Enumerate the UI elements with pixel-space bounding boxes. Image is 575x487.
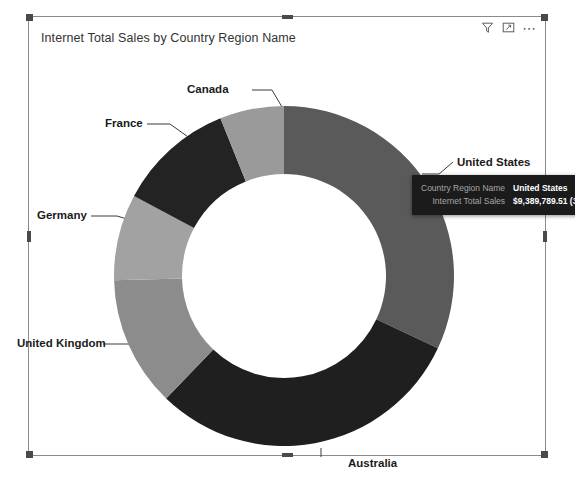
slice-label-australia: Australia [348, 457, 397, 469]
resize-handle-top-right[interactable] [541, 14, 548, 21]
tooltip-table: Country Region Name United States Intern… [421, 182, 575, 207]
tooltip-row: Country Region Name United States [421, 182, 575, 195]
donut-slice-australia[interactable] [166, 319, 438, 446]
slice-label-germany: Germany [37, 209, 87, 221]
slice-label-france: France [105, 117, 143, 129]
resize-handle-bottom-right[interactable] [541, 451, 548, 458]
report-visual-container[interactable]: Internet Total Sales by Country Region N… [28, 16, 546, 456]
leader-line-france [147, 124, 191, 139]
tooltip-value-internet-total-sales: $9,389,789.51 (31.98%) [513, 195, 575, 208]
resize-handle-left-middle[interactable] [27, 231, 31, 242]
donut-chart-svg [29, 17, 547, 457]
slice-label-united-kingdom: United Kingdom [17, 337, 106, 349]
tooltip-key-internet-total-sales: Internet Total Sales [421, 195, 513, 208]
donut-slice-group [114, 106, 454, 446]
leader-line-united-states [422, 162, 453, 174]
resize-handle-top-middle[interactable] [282, 15, 293, 19]
resize-handle-right-middle[interactable] [543, 231, 547, 242]
slice-label-canada: Canada [187, 83, 229, 95]
resize-handle-top-left[interactable] [26, 14, 33, 21]
donut-chart[interactable]: Canada France Germany United Kingdom Aus… [29, 17, 547, 457]
slice-label-united-states: United States [457, 156, 531, 168]
leader-line-australia [321, 448, 343, 457]
tooltip-row: Internet Total Sales $9,389,789.51 (31.9… [421, 195, 575, 208]
donut-slice-united-states[interactable] [284, 106, 454, 348]
tooltip-value-country-region-name: United States [513, 182, 575, 195]
chart-tooltip: Country Region Name United States Intern… [412, 175, 575, 215]
leader-line-canada [252, 90, 282, 107]
resize-handle-bottom-left[interactable] [26, 451, 33, 458]
tooltip-key-country-region-name: Country Region Name [421, 182, 513, 195]
resize-handle-bottom-middle[interactable] [282, 453, 293, 457]
